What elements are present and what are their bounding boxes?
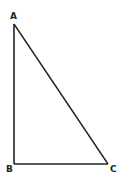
vertex-label-c: C: [110, 164, 117, 174]
edge-ac: [14, 24, 108, 164]
vertex-label-b: B: [6, 164, 13, 174]
vertex-label-a: A: [10, 11, 17, 21]
triangle-diagram: A B C: [0, 0, 125, 180]
